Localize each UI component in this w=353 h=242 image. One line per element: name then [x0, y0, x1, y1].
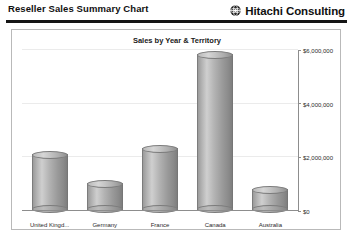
bar-slot	[79, 50, 131, 210]
x-axis-label-slot: Canada	[189, 213, 241, 231]
bar-bottom-ellipse	[252, 205, 288, 213]
y-axis-line	[298, 50, 299, 211]
plot-area	[22, 50, 298, 211]
bar-top-ellipse	[142, 145, 178, 153]
chart-panel: Sales by Year & Territory $6,000,000$4,0…	[11, 29, 341, 230]
x-axis-label: Canada	[205, 222, 226, 228]
y-axis-tick-mark	[298, 157, 301, 158]
y-axis-tick-mark	[298, 211, 301, 212]
report-header: Reseller Sales Summary Chart Hitachi Con…	[0, 0, 353, 26]
bar[interactable]	[142, 148, 178, 210]
bar-top-ellipse	[87, 180, 123, 188]
bar-bottom-ellipse	[87, 205, 123, 213]
bar-slot	[23, 50, 75, 210]
brand-name: Hitachi Consulting	[245, 5, 345, 17]
y-axis-tick-label: $2,000,000	[303, 155, 333, 161]
x-axis-label: France	[151, 222, 170, 228]
bar-top-ellipse	[252, 186, 288, 194]
bar-top-ellipse	[32, 151, 68, 159]
x-axis-labels: United Kingd...GermanyFranceCanadaAustra…	[22, 213, 298, 231]
bar[interactable]	[197, 54, 233, 210]
bar-slot	[189, 50, 241, 210]
x-axis-label-slot: United Kingd...	[23, 213, 75, 231]
brand-block: Hitachi Consulting	[230, 2, 345, 20]
bar-bottom-ellipse	[32, 205, 68, 213]
bar-top-ellipse	[197, 51, 233, 59]
y-axis-tick-mark	[298, 103, 301, 104]
bar[interactable]	[32, 154, 68, 210]
page-title: Reseller Sales Summary Chart	[8, 3, 149, 14]
x-axis-label-slot: Australia	[244, 213, 296, 231]
x-axis-label: Australia	[259, 222, 282, 228]
bar-bottom-ellipse	[142, 205, 178, 213]
bars-layer	[22, 50, 298, 210]
y-axis-tick-mark	[298, 50, 301, 51]
bar[interactable]	[87, 183, 123, 210]
x-axis-label: United Kingd...	[30, 222, 69, 228]
y-axis-tick-label: $4,000,000	[303, 101, 333, 107]
bar-slot	[244, 50, 296, 210]
header-divider	[6, 20, 347, 23]
y-axis-tick-label: $6,000,000	[303, 48, 333, 54]
x-axis-label-slot: France	[134, 213, 186, 231]
x-axis-label: Germany	[92, 222, 117, 228]
hitachi-globe-logo-icon	[230, 2, 241, 20]
x-axis-line	[22, 210, 298, 211]
x-axis-label-slot: Germany	[79, 213, 131, 231]
bar[interactable]	[252, 189, 288, 210]
y-axis: $6,000,000$4,000,000$2,000,000$0	[298, 50, 342, 211]
bar-slot	[134, 50, 186, 210]
y-axis-tick-label: $0	[303, 209, 310, 215]
bar-bottom-ellipse	[197, 205, 233, 213]
chart-title: Sales by Year & Territory	[12, 36, 342, 45]
